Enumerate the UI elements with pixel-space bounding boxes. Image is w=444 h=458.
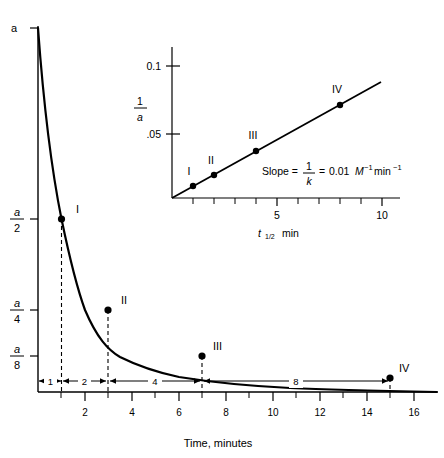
slope-prefix: Slope = bbox=[262, 165, 298, 177]
svg-text:2: 2 bbox=[14, 222, 20, 234]
main-point-label-II: II bbox=[121, 294, 127, 306]
slope-value: 0.01 bbox=[329, 165, 350, 177]
svg-text:a: a bbox=[137, 111, 143, 123]
main-x-tick-label-12: 12 bbox=[314, 407, 326, 418]
slope-unit-molar: M bbox=[355, 165, 364, 177]
inset-point-label-II: II bbox=[208, 154, 214, 166]
slope-unit-minutes-exponent: −1 bbox=[393, 163, 402, 172]
main-point-label-III: III bbox=[213, 340, 222, 352]
slope-fraction-numerator: 1 bbox=[306, 160, 312, 172]
slope-equals: = bbox=[319, 165, 325, 177]
inset-x-tick-label-5: 5 bbox=[274, 209, 280, 221]
inset-point-I bbox=[190, 183, 196, 189]
main-x-tick-label-6: 6 bbox=[176, 407, 182, 418]
figure-background bbox=[0, 0, 444, 458]
svg-text:a: a bbox=[14, 206, 20, 218]
inset-x-axis-label-unit: min bbox=[282, 227, 299, 239]
interval-label-2: 2 bbox=[82, 376, 87, 387]
svg-text:4: 4 bbox=[14, 313, 20, 325]
svg-text:8: 8 bbox=[14, 359, 20, 371]
inset-point-label-IV: IV bbox=[332, 83, 342, 95]
figure-kinetics-plot: a a 2 a 4 a 8 bbox=[0, 0, 444, 458]
main-point-II bbox=[104, 306, 111, 313]
main-point-label-I: I bbox=[76, 203, 79, 215]
main-point-III bbox=[198, 352, 205, 359]
inset-point-II bbox=[211, 172, 217, 178]
interval-label-4: 4 bbox=[152, 376, 157, 387]
main-x-tick-label-4: 4 bbox=[129, 407, 135, 418]
inset-x-tick-label-10: 10 bbox=[376, 209, 388, 221]
svg-text:a: a bbox=[14, 343, 20, 355]
main-point-I bbox=[58, 215, 65, 222]
main-x-tick-label-14: 14 bbox=[361, 407, 373, 418]
main-y-label-a: a bbox=[11, 22, 18, 34]
inset-x-axis-label-subscript: 1/2 bbox=[265, 233, 275, 240]
main-x-tick-label-8: 8 bbox=[223, 407, 229, 418]
main-x-tick-label-2: 2 bbox=[82, 407, 88, 418]
inset-point-label-III: III bbox=[249, 129, 258, 141]
interval-label-1: 1 bbox=[48, 376, 53, 387]
inset-point-IV bbox=[337, 102, 343, 108]
inset-y-tick-label-005: .05 bbox=[146, 128, 161, 140]
inset-point-III bbox=[253, 148, 259, 154]
slope-unit-minutes: min bbox=[374, 165, 391, 177]
main-x-tick-label-10: 10 bbox=[267, 407, 279, 418]
main-x-tick-label-16: 16 bbox=[408, 407, 420, 418]
main-point-label-IV: IV bbox=[399, 362, 410, 374]
inset-y-tick-label-01: 0.1 bbox=[146, 60, 161, 72]
interval-label-8: 8 bbox=[293, 376, 298, 387]
slope-fraction-denominator: k bbox=[306, 175, 312, 187]
svg-text:1: 1 bbox=[137, 95, 143, 107]
svg-text:a: a bbox=[14, 297, 20, 309]
inset-point-label-I: I bbox=[188, 165, 191, 177]
slope-unit-molar-exponent: −1 bbox=[364, 163, 373, 172]
main-x-axis-label: Time, minutes bbox=[184, 437, 253, 449]
